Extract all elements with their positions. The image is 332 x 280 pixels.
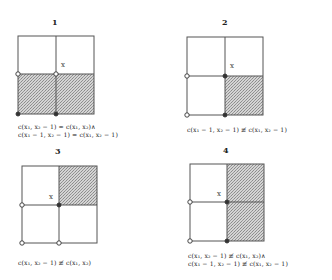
filled-point-marker	[16, 112, 20, 116]
panel-4-caption: c(x₁, x₂ − 1) ≢ c(x₁, x₂)∧ c(x₁ − 1, x₂ …	[188, 252, 288, 268]
hollow-point-marker	[188, 239, 192, 243]
filled-point-marker	[223, 74, 227, 78]
panel-3-caption-line-1: c(x₁, x₂ − 1) ≢ c(x₁, x₂)	[18, 259, 91, 267]
panel-1-caption: c(x₁, x₂ − 1) = c(x₁, x₂)∧ c(x₁ − 1, x₂ …	[18, 123, 118, 139]
panel-1-caption-line-2: c(x₁ − 1, x₂ − 1) = c(x₁, x₂ − 1)	[18, 131, 118, 139]
shaded-cell-top-right	[59, 166, 97, 205]
panel-2-caption-line-1: c(x₁ − 1, x₂ − 1) ≢ c(x₁, x₂ − 1)	[187, 126, 287, 134]
filled-point-marker	[223, 113, 227, 117]
panel-1-caption-line-1: c(x₁, x₂ − 1) = c(x₁, x₂)∧	[18, 123, 118, 131]
x-position-marker: x	[230, 62, 234, 70]
hollow-point-marker	[16, 72, 20, 76]
panel-4-number: 4	[223, 145, 229, 155]
hollow-point-marker	[188, 200, 192, 204]
hollow-point-marker	[54, 72, 58, 76]
shaded-cell-bottom-left	[18, 74, 56, 114]
hollow-point-marker	[20, 241, 24, 245]
x-position-marker: x	[49, 193, 53, 201]
filled-point-marker	[57, 203, 61, 207]
panel-3-caption: c(x₁, x₂ − 1) ≢ c(x₁, x₂)	[18, 259, 91, 267]
panel-4-caption-line-1: c(x₁, x₂ − 1) ≢ c(x₁, x₂)∧	[188, 252, 288, 260]
x-position-marker: x	[61, 61, 65, 69]
filled-point-marker	[225, 200, 229, 204]
hollow-point-marker	[185, 113, 189, 117]
filled-point-marker	[225, 239, 229, 243]
panel-3-number: 3	[55, 146, 61, 156]
x-position-marker: x	[217, 190, 221, 198]
diagram-canvas: xxxx	[0, 0, 332, 280]
panel-1-number: 1	[52, 17, 58, 27]
hollow-point-marker	[20, 203, 24, 207]
shaded-cell-top-right	[227, 164, 264, 202]
panel-2-number: 2	[222, 17, 228, 27]
grid-panel-4: x	[188, 164, 264, 243]
hollow-point-marker	[185, 74, 189, 78]
shaded-cell-bottom-right	[225, 76, 263, 115]
grid-panel-3: x	[20, 166, 97, 245]
shaded-cell-bottom-right	[56, 74, 94, 114]
hollow-point-marker	[57, 241, 61, 245]
filled-point-marker	[54, 112, 58, 116]
shaded-cell-bottom-right	[227, 202, 264, 241]
grid-panel-1: x	[16, 36, 94, 116]
grid-panel-2: x	[185, 37, 263, 117]
panel-4-caption-line-2: c(x₁ − 1, x₂ − 1) ≢ c(x₁, x₂ − 1)	[188, 260, 288, 268]
panel-2-caption: c(x₁ − 1, x₂ − 1) ≢ c(x₁, x₂ − 1)	[187, 126, 287, 134]
